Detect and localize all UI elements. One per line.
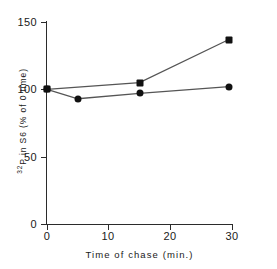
data-point-circle xyxy=(225,83,232,90)
data-point-circle xyxy=(136,90,143,97)
x-axis-title: Time of chase (min.) xyxy=(47,249,232,260)
data-point-square xyxy=(225,36,232,43)
y-axis-title-superscript: 32 xyxy=(16,165,23,174)
data-point-circle xyxy=(74,95,81,102)
series-lines xyxy=(0,0,277,269)
chart-figure: 150 100 50 0 0 10 20 30 Time of chase (m… xyxy=(0,0,277,269)
y-axis-title: 32P in S6 (% of 0 time) xyxy=(16,26,28,216)
data-point-square xyxy=(136,79,143,86)
data-point-circle xyxy=(44,86,51,93)
y-axis-title-text: P in S6 (% of 0 time) xyxy=(18,68,28,165)
